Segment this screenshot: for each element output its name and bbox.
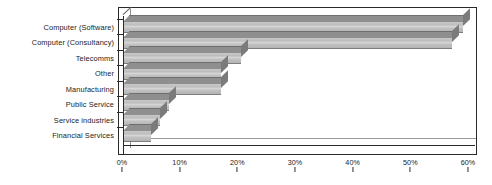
x-axis-tick-mark xyxy=(179,167,180,172)
bar-top-face xyxy=(123,77,228,84)
x-axis-back-edge xyxy=(130,138,476,139)
x-axis-tick-mark xyxy=(294,167,295,172)
category-label: Manufacturing xyxy=(66,84,114,93)
category-label: Telecomms xyxy=(76,53,114,62)
plot-area xyxy=(118,7,477,155)
y-axis-tick xyxy=(117,50,124,51)
plot-inner xyxy=(119,8,476,154)
bar xyxy=(123,131,151,142)
y-axis-tick xyxy=(117,112,124,113)
x-axis-tick-label: 30% xyxy=(288,158,303,167)
bar-top-face xyxy=(123,46,248,53)
category-label: Computer (Consultancy) xyxy=(32,38,114,47)
bar-chart: Computer (Software)Computer (Consultancy… xyxy=(0,0,492,185)
y-axis-tick xyxy=(117,96,124,97)
x-axis-tick-mark xyxy=(121,167,122,172)
x-axis-tick-labels: 0%10%20%30%40%50%60% xyxy=(118,158,492,174)
category-label: Other xyxy=(95,69,114,78)
x-axis-tick-mark xyxy=(237,167,238,172)
category-axis-labels: Computer (Software)Computer (Consultancy… xyxy=(0,7,118,155)
y-axis-tick xyxy=(117,34,124,35)
x-axis-tick-label: 0% xyxy=(117,158,128,167)
x-axis-tick-mark xyxy=(467,167,468,172)
x-axis-tick-mark xyxy=(352,167,353,172)
category-label: Computer (Software) xyxy=(44,22,115,31)
x-axis-tick-label: 60% xyxy=(461,158,476,167)
y-axis-tick xyxy=(117,19,124,20)
x-axis-tick-label: 10% xyxy=(172,158,187,167)
bar-front-face xyxy=(123,131,151,142)
bar-top-face xyxy=(123,15,470,22)
y-axis-tick xyxy=(117,127,124,128)
y-axis-tick xyxy=(117,65,124,66)
x-axis-line xyxy=(123,145,475,146)
category-label: Financial Services xyxy=(52,131,114,140)
y-axis-line xyxy=(123,16,124,155)
category-label: Public Service xyxy=(66,100,114,109)
x-axis-tick-label: 40% xyxy=(345,158,360,167)
bar-top-face xyxy=(123,31,458,38)
bar-top-face xyxy=(123,62,228,69)
category-label: Service industries xyxy=(54,115,114,124)
x-axis-tick-label: 50% xyxy=(403,158,418,167)
y-axis-tick xyxy=(117,81,124,82)
bar-end-cap xyxy=(221,70,228,88)
bar-end-cap xyxy=(463,8,470,26)
x-axis-tick-label: 20% xyxy=(230,158,245,167)
x-axis-tick-mark xyxy=(410,167,411,172)
bar-top-face xyxy=(123,93,176,100)
